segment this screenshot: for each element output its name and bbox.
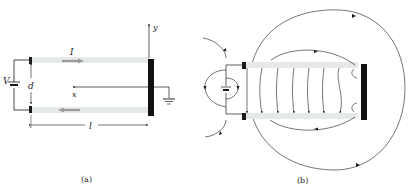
battery-wire-top — [14, 60, 29, 82]
electric-field-lines — [247, 68, 341, 113]
top-conductor-strip — [32, 57, 149, 63]
diagram-canvas: V d I y x l (a) — [0, 0, 408, 193]
top-terminal — [29, 57, 32, 64]
battery-loop-arrow-right — [237, 86, 240, 90]
terminating-plate — [148, 59, 154, 116]
caption-a: (a) — [81, 175, 92, 184]
battery-upper-arrow — [223, 48, 228, 53]
current-label: I — [69, 47, 74, 57]
figure-a: V d I y x l (a) — [3, 23, 175, 184]
plate-curl-bottom — [352, 103, 357, 112]
y-axis-label: y — [152, 23, 158, 32]
battery-wire-bottom — [14, 88, 29, 110]
battery-loop-arrow-left — [204, 86, 207, 90]
plate-curl-top — [352, 69, 357, 78]
outer-loop-arrow-top — [352, 14, 356, 18]
battery-field-loop-inner — [226, 78, 238, 99]
top-conductor-strip-b — [246, 62, 358, 68]
top-terminal-b — [242, 62, 246, 69]
bottom-conductor-strip — [32, 107, 149, 113]
caption-b: (b) — [297, 176, 308, 185]
length-label: l — [89, 121, 92, 131]
outer-loop-arrow-bottom — [356, 163, 360, 167]
battery-field-upper — [203, 38, 226, 58]
bottom-terminal-b — [242, 113, 246, 120]
bottom-conductor-strip-b — [246, 113, 358, 119]
separation-label: d — [28, 81, 34, 91]
battery-field-loop-outer — [205, 70, 226, 107]
battery-wire-top-b — [226, 65, 242, 86]
battery-field-lower — [205, 120, 226, 137]
voltage-label: V — [3, 76, 11, 86]
ground-wire — [154, 87, 169, 98]
outer-field-loop — [252, 10, 405, 170]
terminating-plate-b — [361, 64, 367, 120]
x-axis-label: x — [72, 90, 77, 99]
figure-b: (b) — [203, 10, 405, 185]
bottom-terminal — [29, 106, 32, 113]
